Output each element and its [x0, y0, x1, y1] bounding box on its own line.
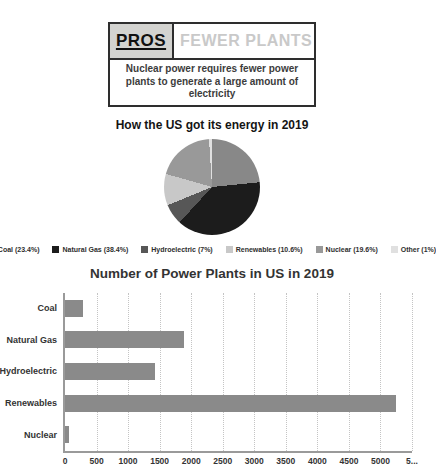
y-axis-category-label: Nuclear: [24, 430, 57, 440]
bar: [65, 331, 184, 348]
legend-swatch: [316, 246, 323, 253]
y-axis-category-label: Coal: [37, 303, 57, 313]
bar-chart-title: Number of Power Plants in US in 2019: [0, 266, 424, 281]
legend-swatch: [391, 246, 398, 253]
x-axis-tick-label: 2000: [182, 456, 201, 466]
bar-row: Nuclear: [65, 419, 412, 451]
bar: [65, 426, 69, 443]
bar-chart: 0500100015002000250030003500400045005000…: [63, 293, 412, 453]
legend-item: Renewables (10.6%): [226, 246, 303, 253]
bar-row: Natural Gas: [65, 324, 412, 356]
pie-chart: [164, 139, 260, 235]
x-axis-tick-label: 4500: [339, 456, 358, 466]
legend-item: Natural Gas (38.4%): [52, 246, 128, 253]
legend-item: Nuclear (19.6%): [316, 246, 378, 253]
legend-swatch: [52, 246, 59, 253]
callout-title-row: PROS FEWER PLANTS: [110, 24, 314, 58]
x-axis-tick-label: 1000: [119, 456, 138, 466]
y-axis-category-label: Hydroelectric: [0, 366, 57, 376]
legend-item: Coal (23.4%): [0, 246, 39, 253]
bar: [65, 395, 396, 412]
pros-callout-box: PROS FEWER PLANTS Nuclear power requires…: [108, 22, 316, 107]
x-axis-tick-label: 5000: [371, 456, 390, 466]
callout-description: Nuclear power requires fewer power plant…: [110, 58, 314, 105]
y-axis-category-label: Renewables: [5, 398, 57, 408]
bar-row: Coal: [65, 293, 412, 325]
x-axis-tick-label: 1500: [150, 456, 169, 466]
legend-label: Other (1%): [401, 246, 436, 253]
x-axis-tick-label: 2500: [213, 456, 232, 466]
bar-row: Renewables: [65, 387, 412, 419]
callout-title: FEWER PLANTS: [180, 32, 312, 50]
x-axis-tick-label: 4000: [308, 456, 327, 466]
bar: [65, 363, 155, 380]
x-axis-tick-label: 3000: [245, 456, 264, 466]
legend-swatch: [226, 246, 233, 253]
legend-item: Hydroelectric (7%): [141, 246, 212, 253]
bar: [65, 300, 83, 317]
x-axis-tick-label: 500: [89, 456, 103, 466]
gridline: [412, 293, 413, 451]
pie-legend: Coal (23.4%)Natural Gas (38.4%)Hydroelec…: [0, 246, 424, 253]
pie-chart-title: How the US got its energy in 2019: [0, 118, 424, 132]
x-axis-tick-label: 5...: [406, 456, 418, 466]
y-axis-category-label: Natural Gas: [6, 335, 57, 345]
legend-label: Hydroelectric (7%): [151, 246, 212, 253]
pros-label: PROS: [116, 31, 166, 51]
legend-swatch: [141, 246, 148, 253]
legend-label: Natural Gas (38.4%): [62, 246, 128, 253]
pros-cell: PROS: [110, 24, 174, 58]
legend-item: Other (1%): [391, 246, 436, 253]
callout-title-cell: FEWER PLANTS: [174, 24, 314, 58]
bar-row: Hydroelectric: [65, 356, 412, 388]
legend-label: Coal (23.4%): [0, 246, 39, 253]
x-axis-tick-label: 0: [63, 456, 68, 466]
x-axis-tick-label: 3500: [276, 456, 295, 466]
legend-label: Renewables (10.6%): [236, 246, 303, 253]
legend-label: Nuclear (19.6%): [326, 246, 378, 253]
